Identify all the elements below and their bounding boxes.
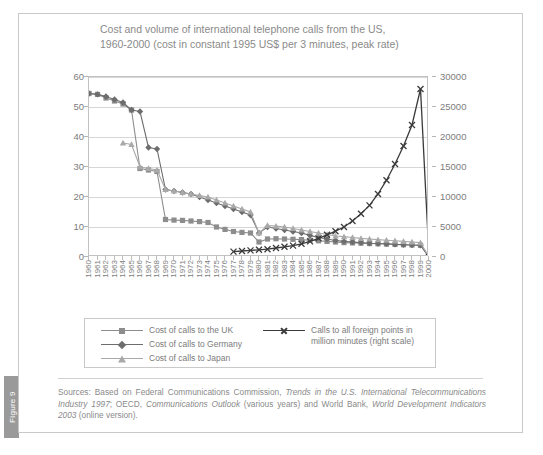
x-tick-label: 1998 bbox=[407, 260, 416, 278]
figure-number-label: Figure 9 bbox=[7, 391, 16, 423]
y-tick-label-right: 15000 bbox=[440, 161, 466, 172]
y-axis-right: 050001000015000200002500030000 bbox=[432, 76, 488, 256]
plot-region bbox=[88, 76, 428, 256]
y-tick-label-left: 50 bbox=[73, 101, 84, 112]
chart-legend: Cost of calls to the UKCost of calls to … bbox=[84, 318, 436, 368]
figure-container: Figure 9 Cost and volume of internationa… bbox=[0, 0, 543, 455]
y-tick-mark-right bbox=[432, 76, 436, 77]
legend-key-triangle-icon bbox=[101, 353, 143, 364]
x-tick-label: 2000 bbox=[424, 260, 433, 278]
legend-label: Cost of calls to Germany bbox=[149, 339, 242, 350]
legend-label: Calls to all foreign points in million m… bbox=[311, 325, 435, 347]
y-axis-left: 0102030405060 bbox=[48, 76, 84, 256]
y-tick-label-right: 25000 bbox=[440, 101, 466, 112]
source-note: Sources: Based on Federal Communications… bbox=[58, 387, 486, 422]
y-tick-label-left: 10 bbox=[73, 221, 84, 232]
x-axis-labels: 1960196119621963196419651966196719681969… bbox=[88, 260, 428, 302]
y-tick-label-right: 0 bbox=[440, 251, 445, 262]
chart-title: Cost and volume of international telepho… bbox=[100, 22, 510, 52]
x-tick-label: 1964 bbox=[118, 260, 127, 278]
y-tick-mark-right bbox=[432, 256, 436, 257]
legend-item[interactable]: Cost of calls to the UK bbox=[101, 325, 233, 336]
legend-item[interactable]: Calls to all foreign points in million m… bbox=[263, 325, 435, 347]
y-tick-label-right: 10000 bbox=[440, 191, 466, 202]
source-divider bbox=[58, 378, 483, 379]
legend-key-square-icon bbox=[101, 325, 143, 336]
x-tick-label: 1990 bbox=[339, 260, 348, 278]
source-mid-1: ; OECD, bbox=[110, 399, 146, 409]
x-tick-label: 1984 bbox=[288, 260, 297, 278]
legend-key-x-icon bbox=[263, 325, 305, 336]
source-suffix: (online version). bbox=[76, 410, 137, 420]
source-italic-2: Communications Outlook bbox=[146, 399, 240, 409]
source-prefix: Sources: Based on Federal Communications… bbox=[58, 387, 286, 397]
legend-item[interactable]: Cost of calls to Germany bbox=[101, 339, 242, 350]
y-tick-mark-right bbox=[432, 196, 436, 197]
y-tick-label-left: 20 bbox=[73, 191, 84, 202]
y-tick-mark-right bbox=[432, 166, 436, 167]
x-tick-label: 1972 bbox=[186, 260, 195, 278]
x-tick-label: 1994 bbox=[373, 260, 382, 278]
x-tick-label: 1986 bbox=[305, 260, 314, 278]
chart-series-layer bbox=[89, 77, 428, 256]
x-tick-label: 1960 bbox=[84, 260, 93, 278]
y-tick-label-left: 40 bbox=[73, 131, 84, 142]
x-tick-label: 1996 bbox=[390, 260, 399, 278]
y-tick-label-right: 30000 bbox=[440, 71, 466, 82]
y-tick-mark-right bbox=[432, 106, 436, 107]
y-tick-label-left: 60 bbox=[73, 71, 84, 82]
x-tick-label: 1988 bbox=[322, 260, 331, 278]
chart-title-line-2: 1960-2000 (cost in constant 1995 US$ per… bbox=[100, 37, 510, 52]
source-mid-2: (various years) and World Bank, bbox=[240, 399, 372, 409]
x-tick-label: 1968 bbox=[152, 260, 161, 278]
plot-area bbox=[88, 76, 428, 256]
y-tick-mark-right bbox=[432, 136, 436, 137]
legend-item[interactable]: Cost of calls to Japan bbox=[101, 353, 230, 364]
chart-title-line-1: Cost and volume of international telepho… bbox=[100, 22, 510, 37]
x-tick-label: 1992 bbox=[356, 260, 365, 278]
y-tick-label-right: 5000 bbox=[440, 221, 461, 232]
series-3 bbox=[231, 86, 429, 256]
legend-label: Cost of calls to the UK bbox=[149, 325, 233, 336]
x-tick-label: 1970 bbox=[169, 260, 178, 278]
x-tick-label: 1978 bbox=[237, 260, 246, 278]
x-tick-label: 1976 bbox=[220, 260, 229, 278]
y-tick-label-right: 20000 bbox=[440, 131, 466, 142]
y-tick-mark-right bbox=[432, 226, 436, 227]
x-tick-label: 1974 bbox=[203, 260, 212, 278]
x-tick-label: 1980 bbox=[254, 260, 263, 278]
figure-number-tab: Figure 9 bbox=[4, 376, 19, 438]
x-tick-label: 1966 bbox=[135, 260, 144, 278]
legend-label: Cost of calls to Japan bbox=[149, 353, 230, 364]
x-tick-label: 1962 bbox=[101, 260, 110, 278]
y-tick-label-left: 30 bbox=[73, 161, 84, 172]
legend-key-diamond-icon bbox=[101, 339, 143, 350]
x-tick-label: 1982 bbox=[271, 260, 280, 278]
